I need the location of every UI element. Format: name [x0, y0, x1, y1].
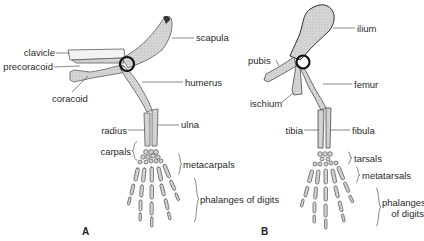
label-metatarsals: metatarsals — [362, 170, 411, 181]
scapula-bone — [122, 16, 172, 68]
humerus-bone — [120, 66, 152, 112]
label-clavicle: clavicle — [8, 47, 55, 58]
label-phalanges-b-line1: phalanges — [382, 197, 424, 208]
panel-label-a: A — [82, 226, 89, 237]
label-ischium: ischium — [250, 98, 282, 109]
panel-label-b: B — [261, 226, 268, 237]
coracoid-bone — [70, 65, 126, 82]
label-fibula: fibula — [352, 125, 375, 136]
ischium-bone — [292, 66, 302, 95]
label-femur: femur — [354, 79, 378, 90]
label-phalanges-b-line2: of digits — [382, 208, 424, 219]
femur-bone — [300, 68, 326, 110]
carpals-bones — [138, 150, 163, 164]
label-scapula: scapula — [196, 32, 229, 43]
label-pubis: pubis — [248, 55, 271, 66]
ilium-bone — [290, 5, 334, 60]
label-tibia: tibia — [276, 125, 303, 136]
tarsals-bones — [313, 152, 338, 166]
label-phalanges-a: phalanges of digits — [200, 194, 279, 205]
label-ilium: ilium — [357, 23, 377, 34]
fibula-bone — [326, 108, 331, 148]
ulna-bone — [152, 109, 158, 146]
label-precoracoid: precoracoid — [0, 61, 53, 72]
radius-bone — [144, 113, 150, 146]
label-ulna: ulna — [181, 119, 199, 130]
label-carpals: carpals — [85, 146, 131, 157]
label-humerus: humerus — [185, 77, 222, 88]
foot-digits — [300, 166, 354, 229]
label-tarsals: tarsals — [354, 153, 382, 164]
label-metacarpals: metacarpals — [183, 159, 235, 170]
label-radius: radius — [90, 125, 127, 136]
hand-digits — [127, 164, 180, 227]
label-coracoid: coracoid — [52, 93, 88, 104]
tibia-bone — [318, 110, 324, 148]
